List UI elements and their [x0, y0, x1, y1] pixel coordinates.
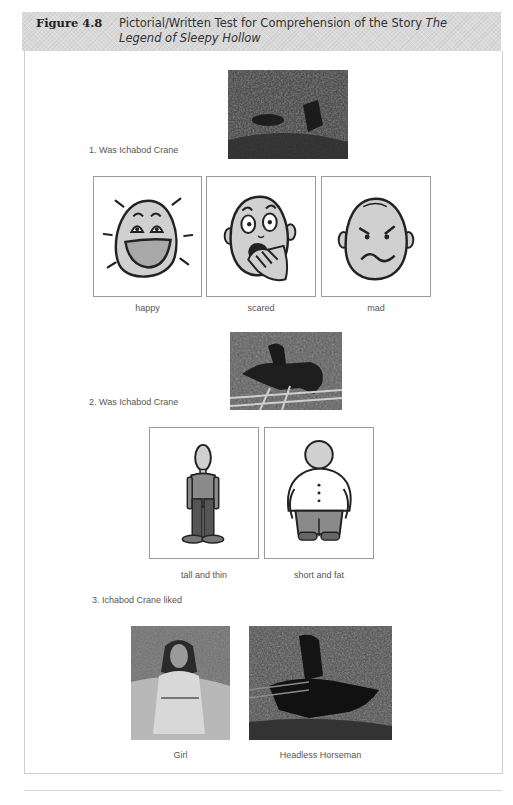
option-girl-label: Girl: [131, 750, 230, 760]
horse-rider-illustration-icon: [230, 332, 342, 410]
option-headless-horseman-label: Headless Horseman: [249, 750, 392, 760]
question-1-image: [228, 70, 348, 159]
option-short-fat-label: short and fat: [264, 570, 374, 580]
scared-face-icon: [207, 177, 315, 296]
short-fat-figure-icon: [265, 428, 373, 558]
figure-title-plain: Pictorial/Written Test for Comprehension…: [119, 16, 426, 30]
bottom-rule: [24, 790, 502, 791]
tall-thin-figure-icon: [150, 428, 258, 558]
figure-header: Figure 4.8 Pictorial/Written Test for Co…: [22, 12, 501, 51]
question-1-text: 1. Was Ichabod Crane: [89, 145, 178, 155]
figure-title: Pictorial/Written Test for Comprehension…: [119, 16, 479, 46]
question-3-text: 3. Ichabod Crane liked: [92, 595, 182, 605]
mad-face-icon: [322, 177, 430, 296]
option-girl-image[interactable]: [131, 626, 230, 740]
option-mad-card[interactable]: [321, 176, 431, 297]
headless-horseman-illustration-icon: [249, 626, 392, 740]
option-tall-thin-label: tall and thin: [149, 570, 259, 580]
option-headless-horseman-image[interactable]: [249, 626, 392, 740]
option-tall-thin-card[interactable]: [149, 427, 259, 559]
girl-portrait-icon: [131, 626, 230, 740]
option-happy-card[interactable]: [93, 176, 202, 297]
question-2-image: [230, 332, 342, 410]
option-happy-label: happy: [93, 303, 202, 313]
happy-face-icon: [94, 177, 201, 296]
dark-forest-illustration-icon: [228, 70, 348, 159]
option-short-fat-card[interactable]: [264, 427, 374, 559]
option-scared-label: scared: [206, 303, 316, 313]
question-2-text: 2. Was Ichabod Crane: [89, 397, 178, 407]
figure-label: Figure 4.8: [36, 16, 102, 30]
option-scared-card[interactable]: [206, 176, 316, 297]
option-mad-label: mad: [321, 303, 431, 313]
